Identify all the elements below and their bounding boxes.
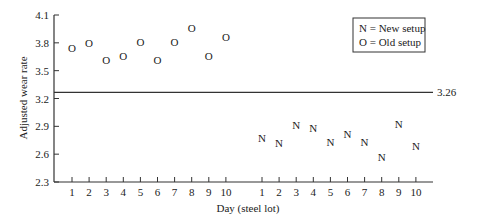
x-tick-label: 9 [206, 186, 212, 198]
new-setup-point: N [326, 136, 334, 148]
y-tick-label: 2.3 [35, 176, 49, 188]
x-tick-label: 9 [396, 186, 402, 198]
legend: N = New setup O = Old setup [353, 18, 426, 52]
new-setup-point: N [395, 118, 403, 130]
x-axis: 1234567891012345678910 [54, 177, 433, 198]
x-tick-label: 6 [345, 186, 351, 198]
new-setup-point: N [412, 140, 420, 152]
scatter-chart: 2.32.62.93.23.53.84.1 123456789101234567… [0, 0, 481, 224]
y-tick-label: 2.9 [35, 120, 49, 132]
x-tick-label: 7 [362, 186, 368, 198]
new-setup-point: N [258, 132, 266, 144]
y-tick-label: 4.1 [35, 9, 49, 21]
legend-entry-old: O = Old setup [359, 36, 422, 48]
old-setup-point: O [68, 42, 76, 54]
y-tick-label: 3.8 [35, 37, 49, 49]
reference-line: 3.26 [54, 86, 457, 98]
x-tick-label: 2 [276, 186, 282, 198]
old-setup-point: O [102, 54, 110, 66]
new-setup-point: N [275, 137, 283, 149]
old-setup-point: O [188, 22, 196, 34]
y-axis: 2.32.62.93.23.53.84.1 [35, 9, 59, 188]
x-tick-label: 8 [379, 186, 385, 198]
x-tick-label: 7 [172, 186, 178, 198]
reference-line-label: 3.26 [437, 86, 457, 98]
old-setup-point: O [154, 54, 162, 66]
x-tick-label: 3 [293, 186, 299, 198]
old-setup-point: O [85, 37, 93, 49]
x-tick-label: 4 [121, 186, 127, 198]
x-axis-title: Day (steel lot) [217, 202, 280, 215]
x-tick-label: 10 [220, 186, 232, 198]
x-tick-label: 4 [311, 186, 317, 198]
x-tick-label: 1 [69, 186, 75, 198]
y-tick-label: 3.2 [35, 93, 49, 105]
x-tick-label: 2 [86, 186, 92, 198]
x-tick-label: 3 [103, 186, 109, 198]
old-setup-point: O [222, 31, 230, 43]
new-setup-point: N [344, 128, 352, 140]
x-tick-label: 5 [328, 186, 334, 198]
old-setup-point: O [119, 50, 127, 62]
new-setup-point: N [292, 119, 300, 131]
y-tick-label: 2.6 [35, 148, 49, 160]
x-tick-label: 1 [259, 186, 265, 198]
x-tick-label: 10 [410, 186, 422, 198]
old-setup-point: O [171, 36, 179, 48]
old-setup-point: O [205, 50, 213, 62]
x-tick-label: 5 [138, 186, 144, 198]
y-axis-title: Adjusted wear rate [17, 56, 29, 139]
new-setup-point: N [309, 122, 317, 134]
new-setup-point: N [378, 151, 386, 163]
legend-entry-new: N = New setup [359, 22, 426, 34]
y-tick-label: 3.5 [35, 65, 49, 77]
old-setup-point: O [136, 36, 144, 48]
x-tick-label: 6 [155, 186, 161, 198]
x-tick-label: 8 [189, 186, 195, 198]
new-setup-point: N [361, 136, 369, 148]
